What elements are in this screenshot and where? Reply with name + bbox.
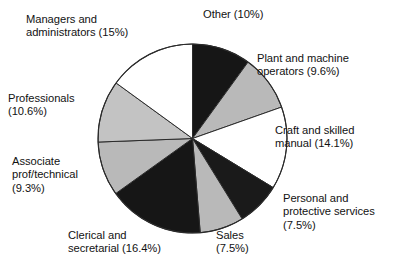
slice-label-personal-and-protective-services: Personal and protective services (7.5%) [283,192,375,232]
pie-chart-figure: Managers and administrators (15%) Other … [0,0,399,274]
slice-label-clerical-and-secretarial: Clerical and secretarial (16.4%) [68,229,161,256]
slice-label-plant-and-machine-operators: Plant and machine operators (9.6%) [257,52,349,79]
slice-label-associate-prof-technical: Associate prof/technical (9.3%) [12,155,78,195]
slice-label-managers-and-administrators: Managers and administrators (15%) [26,13,128,40]
slice-label-sales: Sales (7.5%) [216,229,249,256]
slice-label-craft-and-skilled-manual: Craft and skilled manual (14.1%) [275,124,354,151]
slice-label-other: Other (10%) [203,8,263,21]
slice-label-professionals: Professionals (10.6%) [8,92,75,119]
